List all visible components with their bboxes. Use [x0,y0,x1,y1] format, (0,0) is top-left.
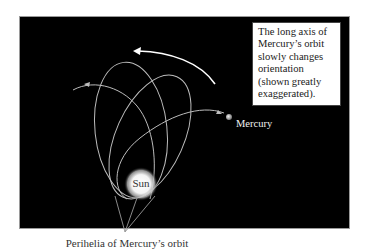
caption-box: The long axis of Mercury’s orbit slowly … [252,22,341,106]
caption-line: Mercury’s orbit [258,38,336,50]
mercury-planet[interactable] [226,114,232,120]
mercury-label: Mercury [236,118,272,129]
caption-line: orientation [258,63,336,75]
perihelia-label: Perihelia of Mercury’s orbit [0,237,254,249]
caption-line: slowly changes [258,51,336,63]
precession-arrowhead-icon [133,47,141,55]
perihelion-pointer-1 [115,196,125,232]
sun-label: Sun [127,177,155,189]
caption-line: (shown greatly [258,76,336,88]
orbit-direction-arrowhead-left [84,82,90,87]
perihelion-pointer-3 [125,196,155,232]
perihelion-pointer-2 [125,198,137,232]
precession-arrow[interactable] [138,51,215,84]
caption-line: exaggerated). [258,88,336,100]
caption-line: The long axis of [258,26,336,38]
